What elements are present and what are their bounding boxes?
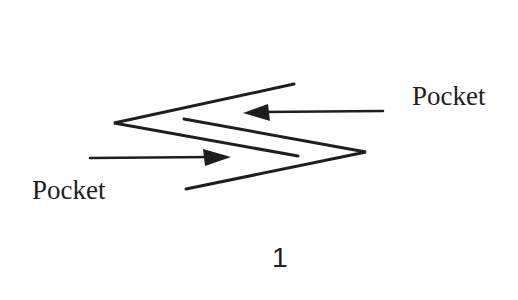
pocket-diagram: Pocket Pocket 1	[0, 0, 518, 300]
top-arrow-shaft	[262, 111, 383, 112]
left-chevron-line	[114, 84, 298, 156]
arrow-left-icon	[243, 104, 270, 121]
pocket-label-top: Pocket	[412, 83, 486, 110]
diagram-canvas	[0, 0, 518, 300]
arrow-right-icon	[203, 149, 231, 166]
figure-number: 1	[272, 244, 288, 272]
bottom-arrow-shaft	[90, 157, 212, 158]
pocket-label-bottom: Pocket	[32, 177, 106, 204]
